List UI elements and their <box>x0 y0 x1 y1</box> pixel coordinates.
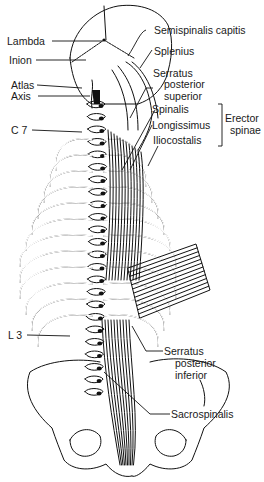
vertebra-shadow <box>98 304 103 308</box>
anatomy-figure: Lambda Inion Atlas Axis C 7 L 3 Semispin… <box>0 0 264 482</box>
leader-semispinalis <box>128 30 146 56</box>
leader-c7 <box>32 130 82 132</box>
vertebra-shadow <box>97 379 102 383</box>
label-spinalis: Spinalis <box>152 103 189 115</box>
label-erector-1: Erector <box>225 112 259 124</box>
label-serratus-superior-2: posterior <box>164 78 205 90</box>
vertebra-shadow <box>98 329 103 333</box>
vertebra-shadow <box>100 229 105 233</box>
serratus-posterior-inferior-muscle <box>128 244 210 318</box>
label-serratus-inferior-2: posterior <box>175 357 216 369</box>
vertebra-shadow <box>99 292 104 296</box>
label-iliocostalis: Iliocostalis <box>153 134 201 146</box>
leader-l3 <box>27 335 70 336</box>
vertebra-shadow <box>100 242 105 246</box>
rib-left <box>38 315 92 346</box>
label-serratus-superior-3: superior <box>164 90 202 102</box>
erector-spinae-bracket <box>218 104 222 146</box>
sacrospinalis-fibres <box>102 320 135 465</box>
label-inion: Inion <box>9 54 32 66</box>
vertebra-shadow <box>100 254 105 258</box>
vertebra-shadow <box>97 367 102 371</box>
label-sacrospinalis: Sacrospinalis <box>171 408 233 420</box>
leader-iliocostalis <box>148 146 158 166</box>
label-splenius: Splenius <box>154 45 194 57</box>
label-c7: C 7 <box>11 124 27 136</box>
vertebra-shadow <box>97 342 102 346</box>
vertebra-shadow <box>99 129 104 133</box>
vertebra-shadow <box>99 117 104 121</box>
label-serratus-inferior-3: inferior <box>175 369 207 381</box>
label-longissimus: Longissimus <box>152 119 210 131</box>
vertebra-shadow <box>97 392 102 396</box>
rib-left-highlight <box>38 315 92 346</box>
leader-atlas <box>37 85 82 88</box>
muscle-line <box>139 286 209 314</box>
vertebra-shadow <box>99 104 104 108</box>
vertebra-shadow <box>100 179 105 183</box>
fibre <box>129 320 135 465</box>
vertebra-shadow <box>97 354 102 358</box>
label-semispinalis-capitis: Semispinalis capitis <box>154 24 246 36</box>
vertebra-shadow <box>100 167 105 171</box>
label-lambda: Lambda <box>7 35 45 47</box>
label-l3: L 3 <box>8 329 22 341</box>
label-erector-2: spinae <box>230 124 261 136</box>
vertebra-shadow <box>100 267 105 271</box>
label-axis: Axis <box>11 90 31 102</box>
leader-splenius <box>140 50 152 68</box>
vertebra-shadow <box>100 142 105 146</box>
vertebra-shadow <box>100 192 105 196</box>
fibre <box>105 320 122 465</box>
label-serratus-inferior-1: Serratus <box>164 345 204 357</box>
vertebra-shadow <box>100 204 105 208</box>
vertebra-shadow <box>99 279 104 283</box>
